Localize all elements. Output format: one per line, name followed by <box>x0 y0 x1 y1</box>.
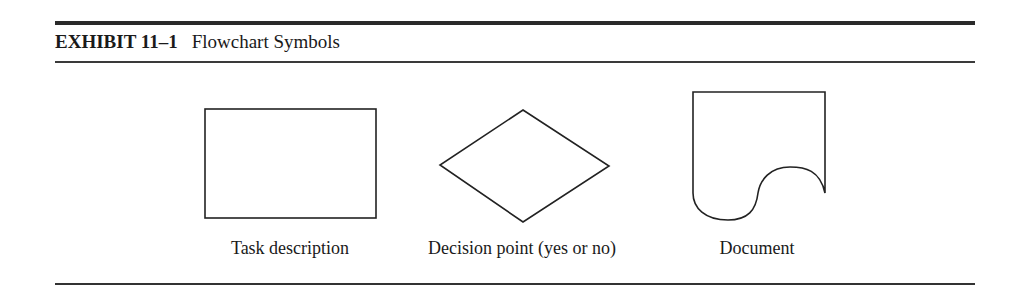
document-shape <box>693 92 825 220</box>
task-rectangle-shape <box>205 109 376 218</box>
caption-document: Document <box>720 238 795 259</box>
bottom-rule <box>55 283 975 285</box>
caption-decision-point: Decision point (yes or no) <box>428 238 616 259</box>
decision-diamond-shape <box>440 110 609 222</box>
caption-task-description: Task description <box>231 238 349 259</box>
